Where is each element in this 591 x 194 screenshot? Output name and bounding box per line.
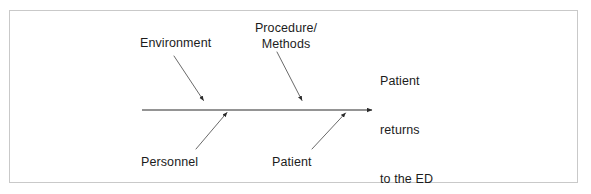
procedure-methods-branch-arrow — [277, 52, 302, 101]
effect-line: to the ED — [380, 171, 485, 187]
effect-statement-text: Patient returns to the ED within 72 hour… — [380, 41, 485, 194]
personnel-branch-arrow — [196, 113, 227, 150]
cause-label-procedure-methods-line1: Procedure/ — [255, 21, 317, 35]
cause-label-patient: Patient — [272, 155, 312, 170]
effect-line: Patient — [380, 73, 485, 89]
cause-label-procedure-methods: Procedure/Methods — [238, 21, 334, 52]
fishbone-diagram-figure: Environment Procedure/Methods Personnel … — [0, 0, 591, 194]
environment-branch-arrow — [174, 56, 204, 101]
cause-label-environment: Environment — [140, 36, 211, 51]
cause-label-procedure-methods-line2: Methods — [262, 37, 311, 51]
patient-branch-arrow — [312, 113, 346, 149]
cause-label-personnel: Personnel — [141, 155, 198, 170]
effect-line: returns — [380, 122, 485, 138]
